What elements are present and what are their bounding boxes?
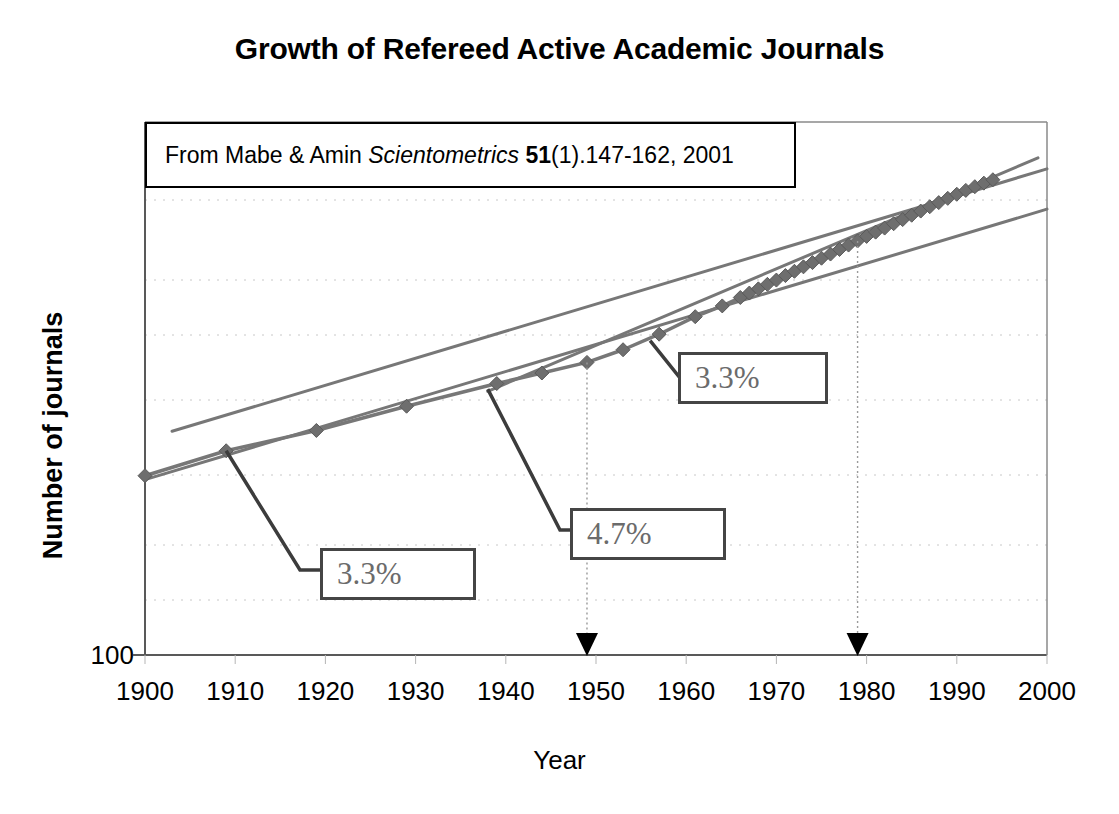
callout-label: 3.3% <box>337 556 402 592</box>
callout-3-3-early: 3.3% <box>320 548 476 600</box>
data-point-1953 <box>616 343 630 357</box>
trend-lines-group <box>145 158 1047 480</box>
x-axis-tick-1910: 1910 <box>187 676 283 707</box>
citation-prefix: From Mabe & Amin <box>165 142 368 168</box>
data-series-group <box>138 173 1000 483</box>
x-axis-tick-1950: 1950 <box>548 676 644 707</box>
data-point-1900 <box>138 469 152 483</box>
plot-frame <box>133 122 1047 655</box>
x-axis-ticks <box>145 655 1047 664</box>
source-citation-box: From Mabe & Amin Scientometrics 51(1).14… <box>145 122 796 188</box>
callout-label: 3.3% <box>695 360 760 396</box>
data-point-1944 <box>535 366 549 380</box>
x-axis-tick-1990: 1990 <box>909 676 1005 707</box>
data-point-1964 <box>715 299 729 313</box>
x-axis-tick-2000: 2000 <box>999 676 1095 707</box>
source-citation-text: From Mabe & Amin Scientometrics 51(1).14… <box>165 142 734 169</box>
x-axis-tick-1960: 1960 <box>638 676 734 707</box>
citation-volume: 51 <box>525 142 551 168</box>
data-point-1957 <box>652 327 666 341</box>
x-axis-tick-1940: 1940 <box>458 676 554 707</box>
x-axis-tick-1920: 1920 <box>277 676 373 707</box>
x-axis-tick-1980: 1980 <box>819 676 915 707</box>
arrow-marker-2 <box>847 633 869 656</box>
citation-journal: Scientometrics <box>368 142 519 168</box>
callout-4-7: 4.7% <box>570 508 726 560</box>
callout-label: 4.7% <box>587 516 652 552</box>
arrow-marker-1 <box>576 633 598 656</box>
chart-container: Growth of Refereed Active Academic Journ… <box>0 0 1119 814</box>
x-axis-tick-1900: 1900 <box>97 676 193 707</box>
citation-suffix: (1).147-162, 2001 <box>551 142 734 168</box>
x-axis-tick-1930: 1930 <box>368 676 464 707</box>
x-axis-tick-1970: 1970 <box>728 676 824 707</box>
callout-3-3-modern: 3.3% <box>678 352 828 404</box>
